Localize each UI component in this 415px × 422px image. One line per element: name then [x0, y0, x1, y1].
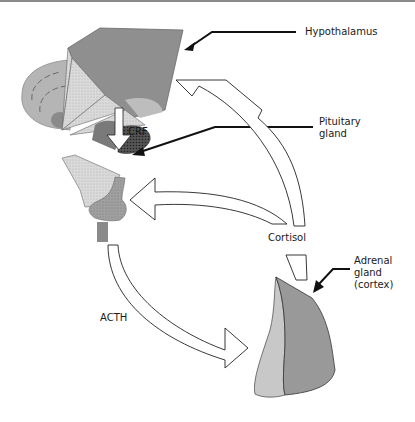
- label-pituitary-line2: gland: [319, 128, 347, 140]
- diagram-graphics: [0, 0, 415, 422]
- label-adrenal-line2: gland: [354, 267, 382, 279]
- cortisol-wedge: [286, 255, 307, 280]
- label-cortisol: Cortisol: [268, 232, 306, 244]
- label-hypothalamus: Hypothalamus: [305, 26, 378, 38]
- adrenal-pointer: [313, 269, 350, 293]
- label-adrenal-line3: (cortex): [354, 279, 393, 291]
- hpa-axis-diagram: Hypothalamus Pituitary gland CRF Cortiso…: [0, 0, 415, 422]
- label-acth: ACTH: [100, 312, 127, 324]
- label-crf: CRF: [128, 126, 148, 138]
- label-pituitary-line1: Pituitary: [319, 116, 361, 128]
- adrenal-gland-shape: [254, 277, 335, 397]
- pituitary-stem: [97, 222, 108, 242]
- hypothalamus-pointer: [184, 32, 296, 51]
- label-adrenal-line1: Adrenal: [354, 255, 392, 267]
- cortisol-to-pituitary-arrow: [130, 178, 287, 224]
- acth-arrow: [108, 245, 248, 368]
